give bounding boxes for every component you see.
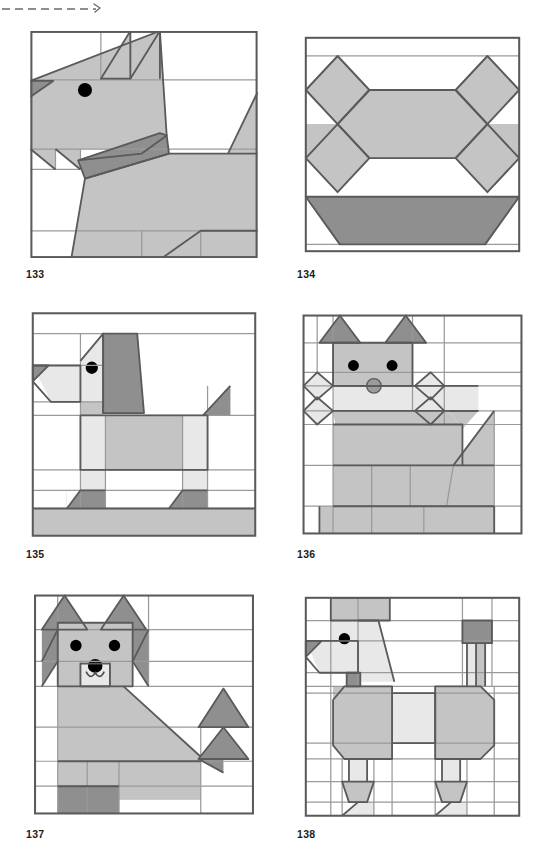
block-135-artwork [26, 311, 262, 538]
quilt-block-137[interactable]: 137 [26, 591, 262, 818]
block-136-artwork [297, 311, 528, 538]
quilt-block-135[interactable]: 135 [26, 311, 262, 538]
block-134-artwork [297, 31, 528, 258]
block-label-133: 133 [26, 268, 44, 280]
block-133-artwork [26, 31, 262, 258]
block-label-138: 138 [297, 828, 315, 840]
block-label-135: 135 [26, 548, 44, 560]
quilt-block-134[interactable]: 134 [297, 31, 528, 258]
block-138-artwork [297, 591, 528, 818]
block-label-134: 134 [297, 268, 315, 280]
block-label-136: 136 [297, 548, 315, 560]
block-137-artwork [26, 591, 262, 818]
quilt-block-138[interactable]: 138 [297, 591, 528, 818]
quilt-block-136[interactable]: 136 [297, 311, 528, 538]
quilt-block-133[interactable]: 133 [26, 31, 262, 258]
dashed-trim-line-icon [0, 0, 110, 20]
block-label-137: 137 [26, 828, 44, 840]
pattern-page: 133 [0, 0, 540, 855]
